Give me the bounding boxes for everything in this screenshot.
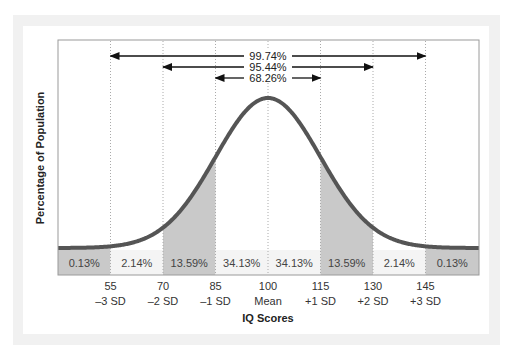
x-axis-ticks: 55–3 SD70–2 SD85–1 SD100Mean115+1 SD130+… <box>95 280 441 307</box>
tick-value: 100 <box>259 280 277 292</box>
region-percent-label: 2.14% <box>384 257 415 269</box>
tick-value: 130 <box>364 280 382 292</box>
y-axis-label: Percentage of Population <box>34 91 46 224</box>
tick-sd-label: –1 SD <box>200 295 231 307</box>
x-axis-label: IQ Scores <box>242 312 293 324</box>
region-percent-label: 2.14% <box>121 257 152 269</box>
region-percent-label: 0.13% <box>69 257 100 269</box>
bell-curve-chart: 0.13%2.14%13.59%34.13%34.13%13.59%2.14%0… <box>0 0 511 362</box>
region-percent-label: 13.59% <box>171 257 209 269</box>
tick-value: 70 <box>157 280 169 292</box>
percent-band: 0.13%2.14%13.59%34.13%34.13%13.59%2.14%0… <box>58 250 479 275</box>
tick-value: 55 <box>104 280 116 292</box>
tick-value: 145 <box>416 280 434 292</box>
tick-sd-label: Mean <box>254 295 282 307</box>
tick-value: 115 <box>312 280 330 292</box>
tick-sd-label: +1 SD <box>305 295 336 307</box>
range-percent-label: 68.26% <box>249 72 287 84</box>
tick-value: 85 <box>209 280 221 292</box>
region-percent-label: 34.13% <box>276 257 314 269</box>
region-percent-label: 0.13% <box>437 257 468 269</box>
tick-sd-label: +3 SD <box>410 295 441 307</box>
region-percent-label: 13.59% <box>328 257 366 269</box>
tick-sd-label: +2 SD <box>358 295 389 307</box>
region-percent-label: 34.13% <box>223 257 261 269</box>
tick-sd-label: –2 SD <box>148 295 179 307</box>
tick-sd-label: –3 SD <box>95 295 126 307</box>
